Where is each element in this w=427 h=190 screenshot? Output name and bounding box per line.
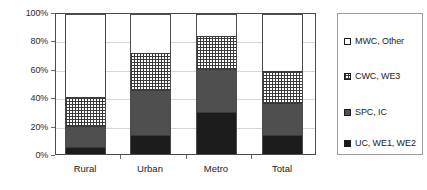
legend-label-spc-ic: SPC, IC [355,107,387,117]
bar-rural-segment-cwc-we3 [66,97,105,126]
chart-legend: MWC, Other CWC, WE3 SPC, IC UC, WE1, WE2 [337,13,423,155]
bar-urban-segment-cwc-we3 [131,53,170,91]
x-tick-mark-2 [186,155,187,159]
bar-total-segment-mwc-other [263,15,302,71]
y-axis: 100% 80% 60% 40% 20% 0% [0,0,48,190]
legend-label-cwc-we3: CWC, WE3 [355,71,400,81]
plot-area [55,13,316,155]
gray-square-icon [344,109,351,116]
bar-urban-segment-uc-we1-we2 [131,135,170,154]
y-tick-mark-0 [51,155,55,156]
crosshatch-square-icon [344,73,351,80]
bar-rural[interactable] [65,14,106,154]
x-label-urban: Urban [115,163,185,174]
bar-metro-segment-uc-we1-we2 [197,112,236,154]
black-square-icon [344,140,351,147]
y-tick-label-40: 40% [0,94,48,103]
stacked-bar-chart: 100% 80% 60% 40% 20% 0% [0,0,427,190]
y-tick-label-60: 60% [0,66,48,75]
white-square-icon [344,38,351,45]
bar-rural-segment-spc-ic [66,126,105,147]
bar-urban-segment-mwc-other [131,15,170,53]
legend-label-mwc-other: MWC, Other [355,36,404,46]
bar-metro-segment-spc-ic [197,69,236,112]
x-label-rural: Rural [50,163,120,174]
bar-total[interactable] [262,14,303,154]
legend-label-uc-we1-we2: UC, WE1, WE2 [355,138,416,148]
bar-metro[interactable] [196,14,237,154]
bar-urban-segment-spc-ic [131,90,170,134]
y-tick-label-20: 20% [0,123,48,132]
x-tick-mark-3 [251,155,252,159]
legend-item-spc-ic[interactable]: SPC, IC [344,107,387,117]
bar-total-segment-spc-ic [263,103,302,135]
x-label-metro: Metro [181,163,251,174]
bar-urban[interactable] [130,14,171,154]
legend-item-cwc-we3[interactable]: CWC, WE3 [344,71,400,81]
x-label-total: Total [247,163,317,174]
y-tick-label-100: 100% [0,9,48,18]
y-tick-label-0: 0% [0,151,48,160]
y-tick-label-80: 80% [0,37,48,46]
x-tick-mark-1 [120,155,121,159]
bar-metro-segment-cwc-we3 [197,36,236,69]
legend-item-mwc-other[interactable]: MWC, Other [344,36,404,46]
bar-rural-segment-uc-we1-we2 [66,147,105,154]
bar-total-segment-uc-we1-we2 [263,135,302,154]
legend-item-uc-we1-we2[interactable]: UC, WE1, WE2 [344,138,416,148]
bar-metro-segment-mwc-other [197,15,236,36]
bar-total-segment-cwc-we3 [263,71,302,103]
bar-rural-segment-mwc-other [66,15,105,97]
